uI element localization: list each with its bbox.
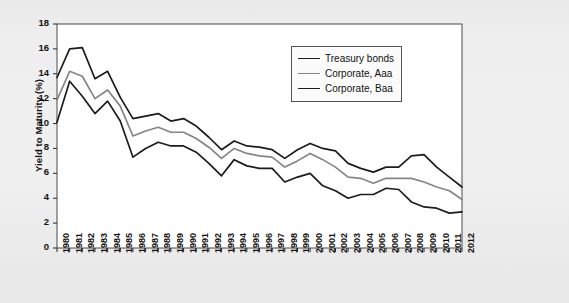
- x-tick-label: 1986: [137, 233, 147, 253]
- x-tick-label: 1982: [86, 233, 96, 253]
- x-tick-label: 1990: [188, 233, 198, 253]
- x-tick-label: 2008: [415, 233, 425, 253]
- legend-color-swatch: [298, 73, 320, 74]
- x-tick-label: 1993: [226, 233, 236, 253]
- y-tick-label: 16: [27, 42, 49, 53]
- x-tick-label: 1995: [251, 233, 261, 253]
- x-tick-label: 2003: [352, 233, 362, 253]
- x-tick-label: 1992: [213, 233, 223, 253]
- y-tick-label: 14: [27, 67, 49, 78]
- y-tick-label: 18: [27, 17, 49, 28]
- x-tick-label: 1984: [112, 233, 122, 253]
- x-tick-label: 1991: [200, 233, 210, 253]
- x-tick-label: 1981: [74, 233, 84, 253]
- x-tick-label: 2012: [466, 233, 476, 253]
- x-tick-label: 2010: [441, 233, 451, 253]
- x-tick-label: 2009: [428, 233, 438, 253]
- legend-label: Treasury bonds: [325, 53, 394, 64]
- x-tick-label: 1994: [238, 233, 248, 253]
- x-tick-label: 1996: [264, 233, 274, 253]
- chart-figure-container: Yield to Maturity (%) 181614121086420 19…: [0, 0, 569, 303]
- y-tick-label: 8: [27, 141, 49, 152]
- x-tick-label: 2006: [390, 233, 400, 253]
- legend-label: Corporate, Baa: [325, 83, 393, 94]
- x-tick-label: 1980: [61, 233, 71, 253]
- x-tick-label: 1988: [162, 233, 172, 253]
- x-tick-label: 1989: [175, 233, 185, 253]
- legend-color-swatch: [298, 88, 320, 89]
- y-tick-label: 2: [27, 216, 49, 227]
- legend-item: Corporate, Aaa: [298, 66, 394, 81]
- y-tick-label: 10: [27, 117, 49, 128]
- x-tick-label: 2011: [453, 233, 463, 253]
- x-tick-label: 2001: [327, 233, 337, 253]
- x-tick-label: 1983: [99, 233, 109, 253]
- plot-area: [0, 0, 569, 303]
- x-tick-label: 1985: [124, 233, 134, 253]
- x-tick-label: 2002: [339, 233, 349, 253]
- y-tick-label: 6: [27, 166, 49, 177]
- x-tick-label: 1997: [276, 233, 286, 253]
- x-tick-label: 2005: [377, 233, 387, 253]
- x-tick-label: 1987: [150, 233, 160, 253]
- legend-label: Corporate, Aaa: [325, 68, 392, 79]
- x-tick-label: 1999: [301, 233, 311, 253]
- legend-color-swatch: [298, 58, 320, 59]
- x-tick-label: 2007: [403, 233, 413, 253]
- y-tick-label: 0: [27, 241, 49, 252]
- legend-item: Treasury bonds: [298, 51, 394, 66]
- y-tick-label: 4: [27, 191, 49, 202]
- chart-legend: Treasury bondsCorporate, AaaCorporate, B…: [291, 46, 402, 102]
- y-tick-label: 12: [27, 92, 49, 103]
- yield-to-maturity-line-chart: Yield to Maturity (%) 181614121086420 19…: [0, 0, 569, 303]
- x-tick-label: 2004: [365, 233, 375, 253]
- x-tick-label: 1998: [289, 233, 299, 253]
- legend-item: Corporate, Baa: [298, 81, 394, 96]
- x-tick-label: 2000: [314, 233, 324, 253]
